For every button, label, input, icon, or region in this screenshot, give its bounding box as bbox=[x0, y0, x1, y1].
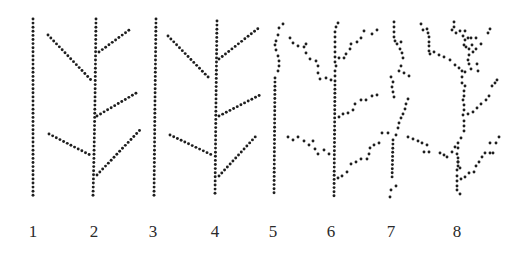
figure-6 bbox=[287, 22, 390, 198]
figure-1 bbox=[32, 18, 35, 197]
figure-label-6: 6 bbox=[321, 222, 341, 242]
figure-label-4: 4 bbox=[205, 222, 225, 242]
figure-label-5: 5 bbox=[263, 222, 283, 242]
figure-label-7: 7 bbox=[381, 222, 401, 242]
dotted-tree-figures bbox=[0, 0, 522, 257]
figure-3 bbox=[153, 18, 158, 197]
figure-2 bbox=[47, 18, 141, 197]
figure-5 bbox=[273, 23, 285, 195]
figure-8 bbox=[420, 21, 501, 196]
figure-4 bbox=[167, 20, 261, 195]
figure-label-8: 8 bbox=[447, 222, 467, 242]
figure-label-2: 2 bbox=[84, 222, 104, 242]
figure-label-1: 1 bbox=[23, 222, 43, 242]
figure-label-3: 3 bbox=[143, 222, 163, 242]
figure-7 bbox=[389, 21, 431, 199]
